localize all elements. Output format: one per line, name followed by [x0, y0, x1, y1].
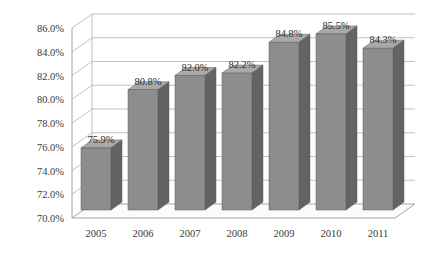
x-tick-label: 2008: [227, 228, 248, 239]
y-tick-label: 76.0%: [37, 142, 64, 153]
y-tick-label: 86.0%: [37, 23, 64, 34]
bar-value-label: 82.2%: [228, 59, 255, 70]
y-tick-label: 74.0%: [37, 166, 64, 177]
y-tick-label: 78.0%: [37, 118, 64, 129]
bar-2006: [128, 82, 169, 210]
x-tick-label: 2009: [274, 228, 295, 239]
bar-2007: [175, 68, 216, 211]
bar-2010: [316, 26, 357, 210]
bar-value-label: 85.5%: [322, 20, 349, 31]
bar-value-label: 80.8%: [134, 76, 161, 87]
y-tick-label: 72.0%: [37, 189, 64, 200]
bar-2008: [222, 65, 263, 210]
bar-2005: [81, 140, 122, 210]
bar-value-label: 75.9%: [87, 134, 114, 145]
bar-value-label: 82.0%: [181, 62, 208, 73]
bar-chart: 86.0% 84.0% 82.0% 80.0% 78.0% 76.0% 74.0…: [0, 0, 437, 255]
y-tick-label: 80.0%: [37, 94, 64, 105]
x-tick-label: 2011: [368, 228, 389, 239]
y-tick-label: 70.0%: [37, 213, 64, 224]
x-tick-label: 2005: [86, 228, 107, 239]
x-tick-label: 2007: [180, 228, 201, 239]
bar-2011: [363, 40, 404, 210]
chart-canvas: 86.0% 84.0% 82.0% 80.0% 78.0% 76.0% 74.0…: [0, 0, 437, 255]
bar-value-label: 84.3%: [369, 34, 396, 45]
y-axis-tick-labels: 86.0% 84.0% 82.0% 80.0% 78.0% 76.0% 74.0…: [37, 23, 64, 224]
x-tick-label: 2006: [133, 228, 154, 239]
y-tick-label: 84.0%: [37, 47, 64, 58]
y-tick-label: 82.0%: [37, 71, 64, 82]
x-tick-label: 2010: [321, 228, 342, 239]
bar-value-label: 84.8%: [275, 28, 302, 39]
bar-2009: [269, 34, 310, 210]
x-axis-tick-labels: 2005 2006 2007 2008 2009 2010 2011: [86, 228, 389, 239]
